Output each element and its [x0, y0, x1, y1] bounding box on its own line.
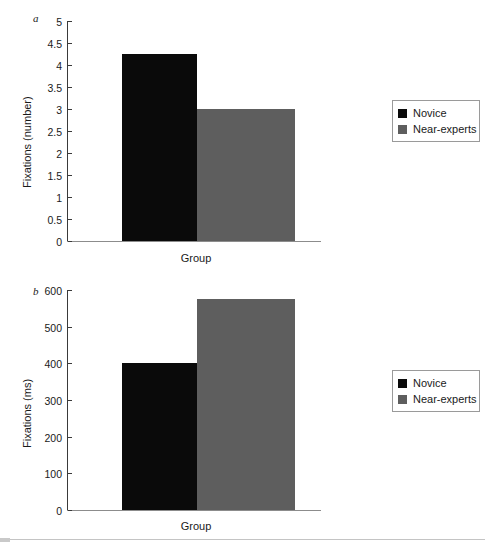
y-tick-a-0 — [68, 241, 72, 242]
legend-item-near-experts-b[interactable]: Near-experts — [398, 391, 472, 407]
y-tick-a-2 — [68, 153, 72, 154]
y-tick-label-a-45: 4.5 — [28, 39, 62, 50]
legend-label-novice-b: Novice — [413, 378, 447, 389]
y-axis-title-a: Fixations (number) — [22, 96, 33, 188]
footer-corner-mark — [0, 538, 10, 542]
x-axis-line-b — [67, 510, 321, 511]
y-tick-a-35 — [68, 87, 72, 88]
y-tick-label-a-05: 0.5 — [28, 215, 62, 226]
y-tick-label-a-4: 4 — [28, 61, 62, 72]
legend-swatch-novice-icon — [398, 109, 407, 118]
footer-divider — [0, 539, 485, 540]
y-tick-b-0 — [68, 510, 72, 511]
y-tick-label-a-35: 3.5 — [28, 83, 62, 94]
y-tick-a-45 — [68, 43, 72, 44]
legend-item-near-experts-a[interactable]: Near-experts — [398, 121, 472, 137]
legend-swatch-near-experts-icon — [398, 395, 407, 404]
y-tick-label-a-5: 5 — [28, 17, 62, 28]
legend-a: Novice Near-experts — [392, 100, 480, 142]
figure-container: a 5 4.5 4 3.5 3 2.5 2 1.5 1 0.5 0 Fixa — [0, 0, 485, 542]
y-tick-b-100 — [68, 473, 72, 474]
y-tick-a-5 — [68, 21, 72, 22]
y-tick-b-200 — [68, 437, 72, 438]
y-tick-label-a-3: 3 — [28, 105, 62, 116]
bar-novice-b — [122, 363, 197, 510]
y-tick-label-b-400: 400 — [26, 359, 62, 370]
panel-a: a 5 4.5 4 3.5 3 2.5 2 1.5 1 0.5 0 Fixa — [0, 0, 485, 270]
bar-novice-a — [122, 54, 197, 241]
legend-item-novice-a[interactable]: Novice — [398, 105, 472, 121]
legend-label-near-experts-b: Near-experts — [413, 394, 477, 405]
y-tick-a-1 — [68, 197, 72, 198]
legend-item-novice-b[interactable]: Novice — [398, 375, 472, 391]
y-tick-label-b-100: 100 — [26, 469, 62, 480]
y-tick-label-b-0: 0 — [26, 506, 62, 517]
legend-label-novice-a: Novice — [413, 108, 447, 119]
y-tick-label-b-500: 500 — [26, 323, 62, 334]
y-tick-a-05 — [68, 219, 72, 220]
y-tick-label-a-2: 2 — [28, 149, 62, 160]
y-tick-a-15 — [68, 175, 72, 176]
y-axis-title-b: Fixations (ms) — [22, 379, 33, 448]
y-tick-b-400 — [68, 363, 72, 364]
y-tick-b-500 — [68, 327, 72, 328]
panel-b: b 600 500 400 300 200 100 0 Fixations (m… — [0, 270, 485, 542]
y-tick-label-a-25: 2.5 — [28, 127, 62, 138]
y-tick-a-4 — [68, 65, 72, 66]
y-tick-a-25 — [68, 131, 72, 132]
y-tick-a-3 — [68, 109, 72, 110]
x-axis-line-a — [67, 241, 321, 242]
x-axis-title-b: Group — [141, 521, 251, 532]
legend-swatch-novice-icon — [398, 379, 407, 388]
x-axis-title-a: Group — [141, 253, 251, 264]
y-tick-b-600 — [68, 290, 72, 291]
bar-near-experts-a — [197, 109, 295, 241]
y-tick-b-300 — [68, 400, 72, 401]
y-tick-label-a-1: 1 — [28, 193, 62, 204]
y-tick-label-a-0: 0 — [28, 237, 62, 248]
bar-near-experts-b — [197, 299, 295, 510]
legend-label-near-experts-a: Near-experts — [413, 124, 477, 135]
y-tick-label-a-15: 1.5 — [28, 171, 62, 182]
legend-b: Novice Near-experts — [392, 370, 480, 412]
legend-swatch-near-experts-icon — [398, 125, 407, 134]
y-tick-label-b-600: 600 — [26, 286, 62, 297]
